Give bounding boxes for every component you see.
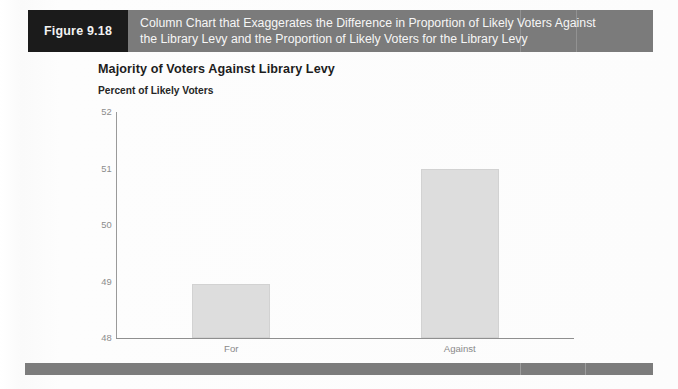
- figure-number-label: Figure 9.18: [44, 24, 112, 38]
- y-tick-label-50: 50: [86, 219, 112, 230]
- x-tick-label-against: Against: [420, 343, 500, 354]
- x-axis-line: [116, 338, 574, 339]
- bar-for: [192, 284, 270, 338]
- figure-number-block: Figure 9.18: [28, 10, 128, 52]
- figure-caption-line-1: Column Chart that Exaggerates the Differ…: [140, 15, 643, 32]
- bar-against: [421, 169, 499, 339]
- chart-axis-unit-label: Percent of Likely Voters: [98, 85, 213, 96]
- figure-caption-block: Column Chart that Exaggerates the Differ…: [128, 10, 653, 52]
- y-tick-label-49: 49: [86, 276, 112, 287]
- y-axis-line: [116, 112, 117, 339]
- footer-seam-artifact-1: [520, 363, 521, 375]
- chart-title: Majority of Voters Against Library Levy: [98, 62, 335, 76]
- figure-header: Figure 9.18 Column Chart that Exaggerate…: [28, 10, 653, 52]
- x-tick-label-for: For: [191, 343, 271, 354]
- figure-caption-line-2: the Library Levy and the Proportion of L…: [140, 31, 643, 48]
- y-tick-label-52: 52: [86, 106, 112, 117]
- figure-page: Figure 9.18 Column Chart that Exaggerate…: [0, 0, 678, 389]
- footer-seam-artifact-2: [585, 363, 586, 375]
- chart-plot-area: 52 51 50 49 48 For Against: [0, 0, 678, 389]
- y-tick-label-51: 51: [86, 163, 112, 174]
- footer-rule-bar: [25, 363, 653, 375]
- y-tick-label-48: 48: [86, 332, 112, 343]
